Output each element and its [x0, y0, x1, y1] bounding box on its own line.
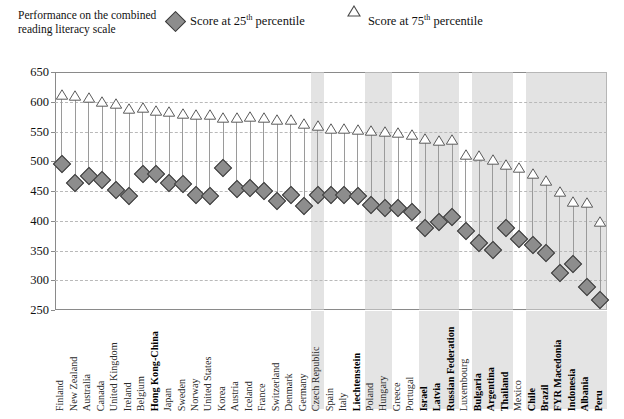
x-axis-tick-label: Greece — [392, 382, 402, 411]
range-connector-line — [75, 96, 76, 183]
data-point-p75 — [257, 109, 270, 127]
range-connector-line — [129, 109, 130, 196]
range-connector-line — [115, 104, 116, 190]
data-point-p75 — [190, 106, 203, 124]
x-axis-tick-label: Czech Republic — [311, 346, 321, 411]
range-connector-line — [196, 115, 197, 195]
data-point-p25 — [174, 175, 192, 193]
x-axis-tick-label: Canada — [96, 380, 106, 411]
data-point-p75 — [325, 120, 338, 138]
x-axis-tick-label: Iceland — [244, 381, 254, 411]
legend-item-25th: Score at 25th percentile — [168, 14, 305, 29]
x-axis-tick-label: Israel — [419, 386, 429, 411]
x-axis-tick-label: Finland — [55, 380, 65, 411]
range-connector-line — [479, 156, 480, 243]
data-point-p75 — [284, 111, 297, 129]
x-axis-tick-label: France — [257, 383, 267, 411]
data-point-p75 — [163, 103, 176, 121]
x-axis-tick-label: Liechtenstein — [351, 353, 361, 411]
x-axis-tick-label: Bulgaria — [472, 373, 482, 411]
data-point-p75 — [149, 102, 162, 120]
range-connector-line — [277, 120, 278, 201]
data-point-p75 — [526, 165, 539, 183]
diamond-marker-icon — [165, 11, 186, 32]
x-axis-tick-label: Mexico — [513, 380, 523, 411]
data-point-p75 — [513, 159, 526, 177]
data-point-p75 — [553, 183, 566, 201]
data-point-p75 — [486, 151, 499, 169]
chart-legend: Score at 25th percentile Score at 75th p… — [168, 14, 483, 29]
x-axis-tick-label: New Zealand — [69, 356, 79, 411]
x-axis-tick-label: United States — [203, 356, 213, 411]
range-connector-line — [519, 168, 520, 238]
data-point-p75 — [500, 156, 513, 174]
x-axis-tick-label: Spain — [324, 388, 334, 411]
range-connector-line — [438, 141, 439, 222]
range-connector-line — [88, 98, 89, 176]
data-point-p75 — [230, 109, 243, 127]
x-axis-tick-label: Australia — [82, 374, 92, 411]
x-axis-tick-label: Thailand — [499, 371, 509, 411]
x-axis-tick-label: Latvia — [432, 383, 442, 411]
range-connector-line — [586, 203, 587, 287]
range-connector-line — [559, 192, 560, 272]
range-connector-line — [344, 129, 345, 194]
y-axis-tick-label: 500 — [30, 154, 49, 169]
data-point-p75 — [176, 105, 189, 123]
y-axis-tick-label: 450 — [30, 184, 49, 199]
data-point-p75 — [351, 121, 364, 139]
range-connector-line — [102, 102, 103, 181]
y-axis-tick-label: 650 — [30, 65, 49, 80]
range-connector-line — [465, 155, 466, 231]
x-axis-tick-label: Hungary — [378, 375, 388, 411]
x-axis-tick-label: Russian Federation — [446, 326, 456, 411]
range-connector-line — [425, 139, 426, 228]
y-axis-tick-label: 550 — [30, 124, 49, 139]
data-point-p75 — [540, 172, 553, 190]
data-point-p75 — [365, 122, 378, 140]
range-connector-line — [492, 160, 493, 250]
data-point-p75 — [459, 146, 472, 164]
x-axis-tick-label: Luxembourg — [459, 359, 469, 411]
x-axis-labels: FinlandNew ZealandAustraliaCanadaUnited … — [55, 311, 607, 415]
legend-label-25th: Score at 25th percentile — [190, 14, 305, 29]
data-point-p25 — [497, 219, 515, 237]
range-connector-line — [209, 115, 210, 195]
y-axis-tick-label: 600 — [30, 94, 49, 109]
data-point-p75 — [69, 87, 82, 105]
x-axis-tick-label: Denmark — [284, 373, 294, 411]
data-point-p75 — [55, 86, 68, 104]
x-axis-tick-label: Belgium — [136, 376, 146, 411]
data-point-p25 — [53, 154, 71, 172]
data-point-p75 — [217, 109, 230, 127]
legend-item-75th: Score at 75th percentile — [347, 14, 483, 29]
range-connector-line — [290, 120, 291, 196]
data-point-p75 — [298, 115, 311, 133]
data-point-p75 — [96, 93, 109, 111]
range-connector-line — [546, 181, 547, 253]
triangle-marker-icon — [347, 16, 361, 27]
data-point-p75 — [271, 111, 284, 129]
data-point-p75 — [82, 89, 95, 107]
x-axis-tick-label: Indonesia — [567, 369, 577, 411]
x-axis-tick-label: Portugal — [405, 376, 415, 411]
x-axis-tick-label: Norway — [190, 378, 200, 411]
data-point-p75 — [109, 95, 122, 113]
x-axis-tick-label: Korea — [217, 386, 227, 411]
x-axis-tick-label: Austria — [230, 381, 240, 411]
data-point-p25 — [591, 291, 609, 309]
x-axis-tick-label: Ireland — [122, 382, 132, 411]
data-point-p25 — [214, 159, 232, 177]
x-axis-tick-label: Switzerland — [271, 362, 281, 411]
data-point-p75 — [580, 194, 593, 212]
data-series-layer — [55, 72, 607, 310]
data-point-p75 — [378, 123, 391, 141]
x-axis-tick-label: Hong Kong-China — [149, 331, 159, 411]
x-axis-tick-label: Sweden — [176, 379, 186, 411]
range-connector-line — [236, 118, 237, 189]
data-point-p25 — [456, 222, 474, 240]
data-point-p75 — [244, 108, 257, 126]
range-connector-line — [250, 117, 251, 188]
chart-axis-title: Performance on the combined reading lite… — [18, 8, 168, 36]
data-point-p75 — [392, 124, 405, 142]
